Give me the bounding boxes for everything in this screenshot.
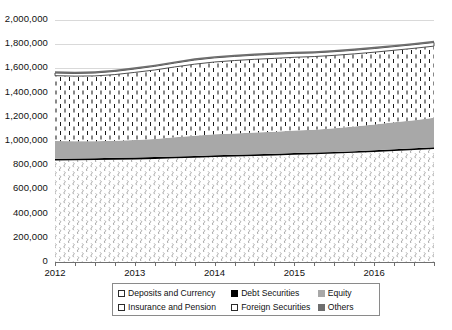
x-axis-tick-label: 2014 bbox=[195, 267, 235, 278]
chart-plot-area bbox=[0, 0, 452, 330]
legend-swatch-equity bbox=[318, 290, 325, 297]
legend-label-equity: Equity bbox=[328, 288, 352, 298]
legend-swatch-others bbox=[318, 304, 325, 311]
legend-label-foreign-securities: Foreign Securities bbox=[241, 302, 310, 312]
legend-item-deposits-and-currency[interactable]: Deposits and Currency bbox=[118, 288, 224, 298]
legend-swatch-foreign-securities bbox=[231, 304, 238, 311]
y-axis-tick-label: 1,200,000 bbox=[0, 110, 48, 121]
x-axis-tick-label: 2013 bbox=[115, 267, 155, 278]
y-axis-tick-label: 2,000,000 bbox=[0, 13, 48, 24]
y-axis-tick-label: 1,600,000 bbox=[0, 61, 48, 72]
y-axis-tick-label: 1,800,000 bbox=[0, 37, 48, 48]
y-axis-tick-label: 1,000,000 bbox=[0, 134, 48, 145]
x-tick-marks bbox=[56, 262, 435, 266]
x-axis-tick-label: 2015 bbox=[274, 267, 314, 278]
y-axis-tick-label: 200,000 bbox=[0, 231, 48, 242]
y-axis-tick-label: 800,000 bbox=[0, 158, 48, 169]
legend-label-debt-securities: Debt Securities bbox=[241, 288, 299, 298]
area-bands bbox=[55, 41, 434, 262]
legend-swatch-insurance-and-pension bbox=[118, 304, 125, 311]
legend-label-deposits-and-currency: Deposits and Currency bbox=[128, 288, 215, 298]
legend-item-debt-securities[interactable]: Debt Securities bbox=[231, 288, 311, 298]
legend-row-1: Deposits and Currency Debt Securities Eq… bbox=[118, 286, 374, 300]
y-axis-tick-label: 0 bbox=[0, 255, 48, 266]
x-axis-tick-label: 2016 bbox=[354, 267, 394, 278]
y-axis-tick-label: 600,000 bbox=[0, 182, 48, 193]
x-axis-tick-label: 2012 bbox=[35, 267, 75, 278]
y-axis-tick-label: 1,400,000 bbox=[0, 86, 48, 97]
legend-item-others[interactable]: Others bbox=[318, 302, 367, 312]
legend-item-equity[interactable]: Equity bbox=[318, 288, 367, 298]
area-band-deposits-and-currency bbox=[55, 149, 434, 262]
legend-swatch-debt-securities bbox=[231, 290, 238, 297]
legend-row-2: Insurance and Pension Foreign Securities… bbox=[118, 300, 374, 314]
chart-legend: Deposits and Currency Debt Securities Eq… bbox=[112, 283, 380, 316]
legend-label-insurance-and-pension: Insurance and Pension bbox=[128, 302, 216, 312]
legend-item-insurance-and-pension[interactable]: Insurance and Pension bbox=[118, 302, 224, 312]
legend-swatch-deposits-and-currency bbox=[118, 290, 125, 297]
legend-item-foreign-securities[interactable]: Foreign Securities bbox=[231, 302, 311, 312]
y-axis-tick-label: 400,000 bbox=[0, 207, 48, 218]
legend-label-others: Others bbox=[328, 302, 354, 312]
stacked-area-chart: 2,000,0001,800,0001,600,0001,400,0001,20… bbox=[0, 0, 452, 330]
